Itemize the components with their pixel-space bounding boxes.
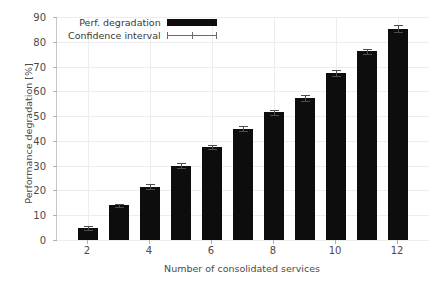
y-tick-mark: [53, 42, 57, 43]
legend-item-perf-degradation: Perf. degradation: [68, 16, 217, 29]
y-tick-mark: [53, 190, 57, 191]
chart-legend: Perf. degradation Confidence interval: [68, 16, 217, 42]
x-tick-label: 6: [191, 245, 231, 256]
x-tick-label: 4: [129, 245, 169, 256]
y-tick-label: 30: [0, 160, 46, 171]
error-bar-cap: [394, 32, 403, 33]
error-bar-cap: [177, 168, 186, 169]
error-bar-cap: [270, 110, 279, 111]
error-bar-cap: [84, 230, 93, 231]
x-tick-label: 2: [67, 245, 107, 256]
x-tick-mark: [87, 240, 88, 244]
bar: [264, 112, 284, 240]
y-tick-mark: [53, 240, 57, 241]
bar: [326, 73, 346, 240]
y-tick-label: 50: [0, 111, 46, 122]
error-bar-cap: [115, 204, 124, 205]
error-bar-cap: [394, 25, 403, 26]
y-tick-label: 70: [0, 61, 46, 72]
plot-area: [56, 17, 429, 241]
error-bar-cap: [301, 95, 310, 96]
x-tick-mark: [335, 240, 336, 244]
bar: [171, 166, 191, 240]
y-tick-label: 10: [0, 210, 46, 221]
x-tick-mark: [149, 240, 150, 244]
error-bar-cap: [239, 131, 248, 132]
bar: [357, 51, 377, 240]
y-tick-mark: [53, 215, 57, 216]
y-tick-mark: [53, 141, 57, 142]
y-tick-label: 20: [0, 185, 46, 196]
y-tick-label: 80: [0, 36, 46, 47]
error-bar-cap: [177, 163, 186, 164]
y-tick-label: 0: [0, 235, 46, 246]
error-bar-cap: [332, 70, 341, 71]
x-tick-mark: [397, 240, 398, 244]
error-bar-cap: [84, 226, 93, 227]
error-bar-cap: [208, 149, 217, 150]
error-bar-cap: [363, 54, 372, 55]
error-bar-cap: [363, 49, 372, 50]
error-bar-cap: [146, 189, 155, 190]
gridline-vertical: [88, 17, 89, 240]
bar: [233, 129, 253, 241]
y-tick-mark: [53, 17, 57, 18]
x-tick-mark: [211, 240, 212, 244]
y-tick-mark: [53, 67, 57, 68]
x-tick-label: 12: [377, 245, 417, 256]
error-bar-cap: [115, 207, 124, 208]
bar: [202, 147, 222, 240]
bar: [388, 29, 408, 240]
bar: [140, 187, 160, 240]
bar-chart-figure: Performance degradation [%] Number of co…: [0, 0, 433, 283]
y-tick-mark: [53, 116, 57, 117]
y-tick-label: 40: [0, 135, 46, 146]
legend-swatch-errorbar-icon: [167, 31, 217, 40]
y-tick-label: 90: [0, 12, 46, 23]
bar: [295, 98, 315, 240]
error-bar-cap: [146, 184, 155, 185]
legend-label-perf-degradation: Perf. degradation: [79, 16, 167, 29]
legend-item-confidence-interval: Confidence interval: [68, 29, 217, 42]
y-tick-label: 60: [0, 86, 46, 97]
error-bar-cap: [208, 145, 217, 146]
error-bar-cap: [301, 101, 310, 102]
x-tick-mark: [273, 240, 274, 244]
gridline-horizontal: [57, 240, 429, 241]
y-tick-mark: [53, 166, 57, 167]
error-bar-cap: [239, 126, 248, 127]
x-tick-label: 8: [253, 245, 293, 256]
legend-swatch-bar-icon: [167, 19, 217, 26]
x-tick-label: 10: [315, 245, 355, 256]
x-axis-label: Number of consolidated services: [56, 263, 428, 274]
error-bar-cap: [332, 76, 341, 77]
bar: [109, 205, 129, 240]
y-tick-mark: [53, 91, 57, 92]
legend-label-confidence-interval: Confidence interval: [68, 29, 167, 42]
error-bar-cap: [270, 115, 279, 116]
